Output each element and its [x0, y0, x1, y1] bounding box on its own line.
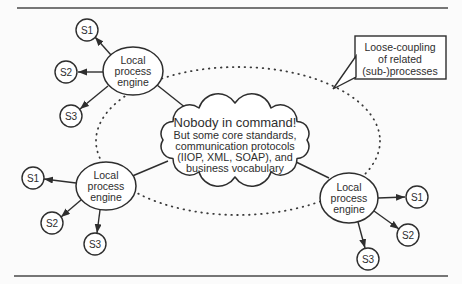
satellite-label: S3 [362, 254, 375, 265]
satellite-label: S1 [27, 173, 40, 184]
arrow-right-to-s3 [358, 222, 365, 248]
callout-line: of related [378, 53, 422, 65]
process-coupling-diagram: Loose-coupling of related (sub-)processe… [0, 0, 462, 284]
satellite-label: S3 [65, 111, 78, 122]
satellite-label: S2 [60, 67, 73, 78]
connector-right-engine-cloud [292, 160, 329, 178]
satellite-label: S2 [402, 230, 415, 241]
satellite-label: S3 [89, 239, 102, 250]
arrow-bottomleft-to-s3 [97, 210, 100, 233]
callout-line: Loose-coupling [364, 41, 435, 53]
callout-pointer [333, 56, 356, 89]
cloud-body-line: business vocabulary [186, 162, 284, 174]
engine-label-line: engine [333, 203, 365, 215]
connector-bottomleft-engine-cloud [130, 161, 168, 177]
arrow-bottomleft-to-s1 [44, 179, 76, 183]
satellite-label: S1 [411, 192, 424, 203]
arrow-right-to-s1 [378, 197, 405, 198]
satellite-label: S1 [81, 25, 94, 36]
arrow-topleft-to-s1 [95, 37, 111, 55]
cloud-title: Nobody in command! [174, 115, 297, 130]
engine-label-line: engine [117, 76, 149, 88]
diagram-canvas: Loose-coupling of related (sub-)processe… [0, 0, 462, 284]
arrow-bottomleft-to-s2 [61, 200, 81, 217]
arrow-topleft-to-s3 [80, 86, 108, 109]
callout-line: (sub-)processes [362, 65, 437, 77]
engine-label-line: engine [90, 191, 122, 203]
satellite-label: S2 [46, 218, 59, 229]
arrow-right-to-s2 [374, 211, 399, 229]
